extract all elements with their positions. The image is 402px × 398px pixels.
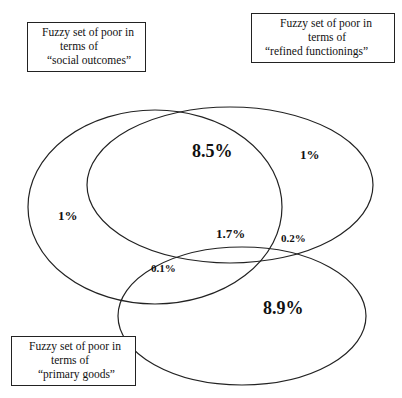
- label-line: Fuzzy set of poor in: [42, 25, 145, 39]
- label-line: terms of: [280, 30, 394, 44]
- ellipse-social-outcomes: [28, 110, 282, 304]
- label-box-refined-functionings: Fuzzy set of poor in terms of “refined f…: [251, 13, 395, 63]
- label-line: terms of: [42, 39, 145, 53]
- label-box-primary-goods: Fuzzy set of poor in terms of “primary g…: [11, 336, 136, 386]
- label-box-social-outcomes: Fuzzy set of poor in terms of “social ou…: [27, 22, 146, 72]
- region-refined-primary-value: 0.2%: [281, 232, 306, 244]
- region-social-refined-value: 8.5%: [192, 141, 233, 162]
- region-all-three-value: 1.7%: [216, 226, 245, 242]
- label-line: Fuzzy set of poor in: [280, 16, 394, 30]
- region-refined-only-value: 1%: [300, 147, 320, 163]
- label-line: “social outcomes”: [42, 53, 145, 67]
- label-line: “primary goods”: [29, 367, 135, 381]
- label-line: Fuzzy set of poor in: [29, 339, 135, 353]
- region-social-only-value: 1%: [58, 208, 78, 224]
- region-social-primary-value: 0.1%: [151, 262, 176, 274]
- label-line: terms of: [29, 353, 135, 367]
- label-line: “refined functionings”: [265, 44, 394, 58]
- region-primary-only-value: 8.9%: [263, 298, 304, 319]
